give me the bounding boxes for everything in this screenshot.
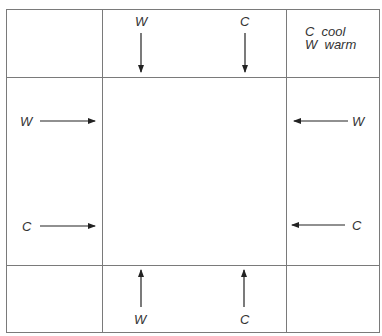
legend-item-warm: W warm xyxy=(305,38,356,51)
label-bottom-right: C xyxy=(240,313,249,326)
label-top-right: C xyxy=(240,15,249,28)
label-left-upper: W xyxy=(20,115,32,128)
label-left-lower: C xyxy=(22,220,31,233)
label-right-lower: C xyxy=(352,219,361,232)
label-top-left: W xyxy=(135,15,147,28)
label-bottom-left: W xyxy=(134,313,146,326)
label-right-upper: W xyxy=(352,115,364,128)
legend: C cool W warm xyxy=(305,25,356,51)
